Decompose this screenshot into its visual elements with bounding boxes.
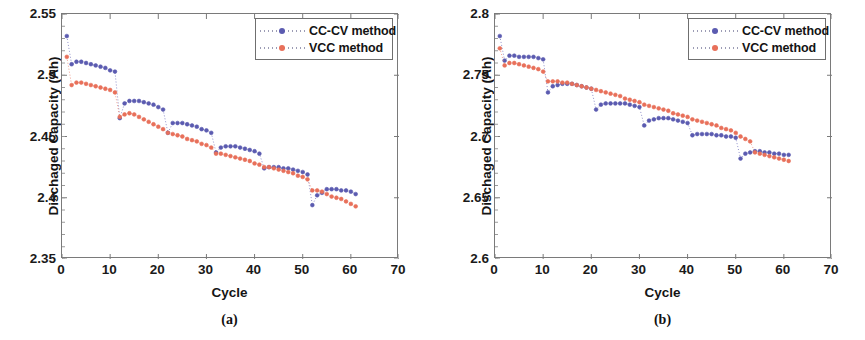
subfigure-caption-a: (a)	[61, 312, 398, 328]
x-axis-title-a: Cycle	[61, 285, 398, 300]
x-tick-label-b: 50	[727, 262, 742, 277]
legend-label-cccv-a: CC-CV method	[309, 24, 396, 38]
x-tick-label-b: 70	[823, 262, 838, 277]
x-axis-title-b: Cycle	[494, 285, 831, 300]
x-tick-label-a: 10	[102, 262, 117, 277]
y-tick-label-a: 2.5	[37, 67, 56, 82]
legend-a: CC-CV method VCC method	[255, 18, 393, 60]
x-tick-label-b: 30	[631, 262, 646, 277]
y-tick-label-a: 2.35	[30, 251, 56, 266]
legend-entry-cccv-b: CC-CV method	[693, 22, 819, 39]
chart-panel-a: Dischaged Capacity (Ah) 2.352.42.452.52.…	[0, 0, 432, 340]
x-tick-label-a: 50	[294, 262, 309, 277]
legend-b: CC-CV method VCC method	[688, 18, 826, 60]
y-tick-label-b: 2.65	[463, 189, 489, 204]
y-tick-label-a: 2.45	[30, 128, 56, 143]
legend-entry-cccv-a: CC-CV method	[260, 22, 386, 39]
legend-entry-vcc-b: VCC method	[693, 39, 819, 56]
x-tick-label-b: 20	[583, 262, 598, 277]
x-tick-label-b: 60	[775, 262, 790, 277]
y-tick-label-b: 2.7	[470, 128, 489, 143]
x-tick-label-b: 10	[535, 262, 550, 277]
chart-panel-b: Dischaged Capacity (Ah) 2.62.652.72.752.…	[433, 0, 865, 340]
x-tick-label-a: 60	[342, 262, 357, 277]
x-tick-label-a: 30	[198, 262, 213, 277]
legend-marker-cccv-a	[260, 25, 306, 37]
x-tick-label-a: 70	[390, 262, 405, 277]
legend-marker-vcc-b	[693, 42, 739, 54]
legend-entry-vcc-a: VCC method	[260, 39, 386, 56]
x-tick-label-b: 40	[679, 262, 694, 277]
y-tick-label-b: 2.8	[470, 6, 489, 21]
x-tick-label-a: 0	[57, 262, 65, 277]
subfigure-caption-b: (b)	[494, 312, 831, 328]
y-tick-label-b: 2.6	[470, 251, 489, 266]
x-tick-label-b: 0	[490, 262, 498, 277]
y-tick-label-a: 2.4	[37, 189, 56, 204]
x-tick-label-a: 20	[150, 262, 165, 277]
legend-marker-cccv-b	[693, 25, 739, 37]
y-axis-ticklabels-a: 2.352.42.452.52.55	[0, 0, 58, 340]
legend-label-vcc-b: VCC method	[742, 41, 816, 55]
y-tick-label-b: 2.75	[463, 67, 489, 82]
legend-label-cccv-b: CC-CV method	[742, 24, 829, 38]
y-tick-label-a: 2.55	[30, 6, 56, 21]
figure-discharge-capacity: Dischaged Capacity (Ah) 2.352.42.452.52.…	[0, 0, 865, 340]
y-axis-ticklabels-b: 2.62.652.72.752.8	[433, 0, 491, 340]
x-tick-label-a: 40	[246, 262, 261, 277]
legend-marker-vcc-a	[260, 42, 306, 54]
legend-label-vcc-a: VCC method	[309, 41, 383, 55]
